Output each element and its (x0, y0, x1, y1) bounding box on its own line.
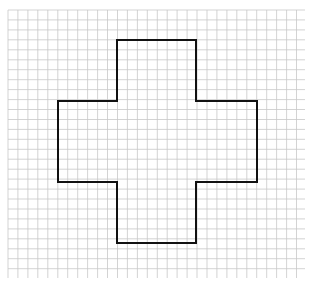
grid-lines (8, 10, 305, 278)
graph-paper-diagram (0, 0, 311, 288)
